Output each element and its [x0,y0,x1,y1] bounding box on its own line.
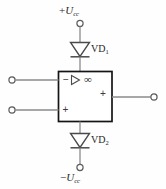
positive-supply-symbol: U [65,4,73,16]
terminal-circle-negative-supply [77,164,83,170]
diode-vd2-label: VD2 [91,135,109,147]
diode-vd2 [71,134,90,171]
terminal-circle-noninverting-input [9,107,15,113]
positive-supply-subscript: cc [73,10,79,18]
output-polarity-sign: + [100,89,106,99]
negative-supply-label: −Ucc [60,172,80,185]
inverting-input-sign: − [63,75,69,85]
diode-vd1 [71,43,90,72]
terminal-circle-output [151,94,157,100]
diode-vd2-anode-triangle [71,134,90,148]
output-wire-group [112,94,157,100]
diode-vd1-subscript: 1 [105,48,108,55]
op-amp-circuit-diagram: +Ucc VD1 − ∞ + + VD2 −Ucc [0,0,166,189]
noninverting-input-sign: + [63,105,69,115]
diode-vd1-anode-triangle [71,43,90,57]
diode-vd1-label: VD1 [91,44,109,56]
terminal-circle-inverting-input [9,77,15,83]
negative-supply-subscript: cc [74,177,80,185]
input-wires [9,77,59,113]
circuit-schematic-canvas [0,0,166,189]
positive-supply-label: +Ucc [59,5,79,18]
diode-vd1-name: VD [91,43,105,54]
positive-supply-branch [77,20,83,42]
terminal-circle-positive-supply [77,20,83,26]
diode-vd2-subscript: 2 [105,139,108,146]
infinite-gain-symbol: ∞ [84,74,92,85]
negative-supply-symbol: U [66,171,74,183]
diode-vd2-name: VD [91,134,105,145]
